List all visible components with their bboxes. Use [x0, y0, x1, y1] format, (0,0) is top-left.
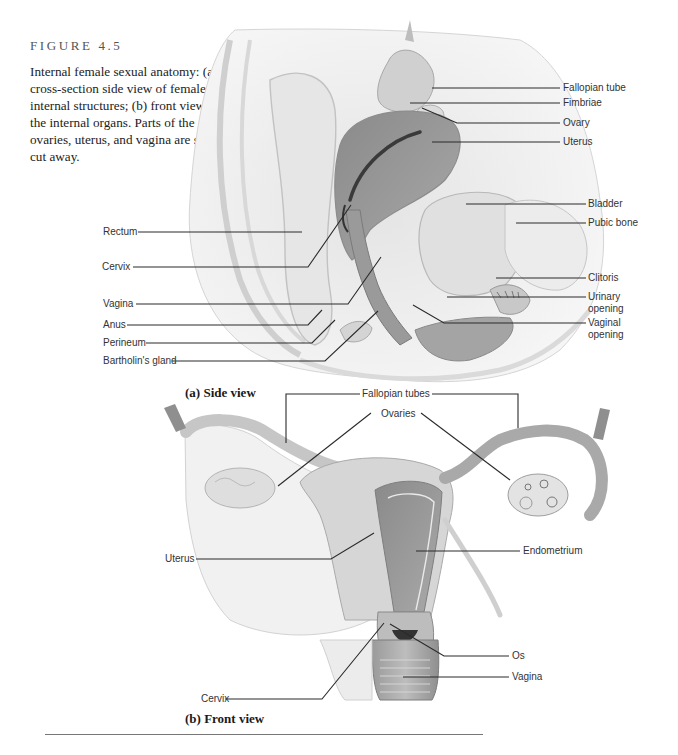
label-perineum: Perineum: [103, 337, 146, 349]
label-vaginal-opening: Vaginal opening: [588, 317, 648, 341]
label-cervix-front: Cervix: [201, 693, 229, 705]
anatomy-illustration: [0, 0, 678, 755]
label-pubic-bone: Pubic bone: [588, 217, 638, 229]
label-uterus-front: Uterus: [165, 553, 194, 565]
panel-title-front-view: (b) Front view: [185, 711, 264, 727]
label-bartholins-gland: Bartholin's gland: [103, 355, 177, 367]
label-ovaries: Ovaries: [381, 408, 415, 420]
label-fallopian-tubes: Fallopian tubes: [362, 388, 430, 400]
label-bladder: Bladder: [588, 198, 622, 210]
label-vagina-front: Vagina: [512, 671, 542, 683]
label-os: Os: [512, 650, 525, 662]
label-cervix: Cervix: [102, 261, 130, 273]
side-view-drawing: [189, 20, 603, 382]
label-clitoris: Clitoris: [588, 272, 619, 284]
label-endometrium: Endometrium: [523, 545, 582, 557]
label-fimbriae: Fimbriae: [563, 97, 602, 109]
label-ovary: Ovary: [563, 117, 590, 129]
label-rectum: Rectum: [103, 226, 137, 238]
bottom-rule: [45, 734, 483, 735]
label-fallopian-tube: Fallopian tube: [563, 82, 626, 94]
label-uterus: Uterus: [563, 136, 592, 148]
panel-title-side-view: (a) Side view: [185, 385, 256, 401]
label-anus: Anus: [103, 319, 126, 331]
label-urinary-opening: Urinary opening: [588, 291, 648, 315]
label-vagina: Vagina: [103, 298, 133, 310]
